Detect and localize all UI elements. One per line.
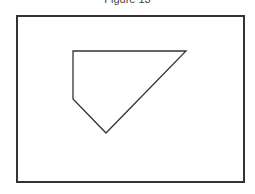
figure-canvas bbox=[0, 0, 255, 194]
polygon-shape bbox=[73, 51, 186, 133]
